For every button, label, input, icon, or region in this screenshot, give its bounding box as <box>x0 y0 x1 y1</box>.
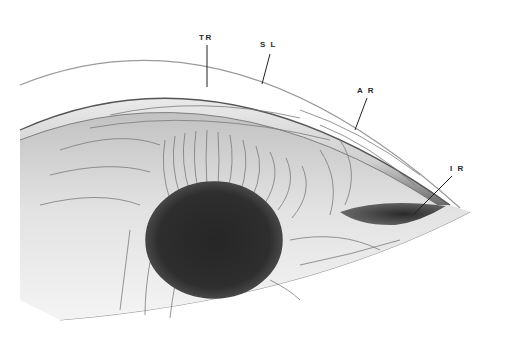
anatomical-illustration <box>0 0 505 337</box>
central-opening <box>146 182 282 298</box>
label-ir: I R <box>450 164 465 173</box>
label-tr: TR <box>199 33 213 42</box>
label-sl: S L <box>260 40 277 49</box>
label-ar: A R <box>357 86 375 95</box>
